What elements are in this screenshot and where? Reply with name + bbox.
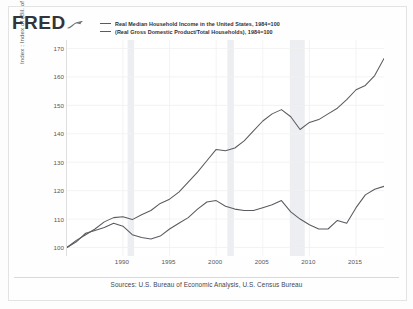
y-tick-label: 150 (36, 102, 64, 109)
x-tick-label: 1990 (115, 258, 129, 265)
recession-band (290, 40, 305, 256)
plot-area (66, 40, 384, 256)
y-tick-label: 170 (36, 45, 64, 52)
legend-line-icon (100, 23, 111, 24)
legend-item-1-label: (Real Gross Domestic Product/Total House… (115, 29, 273, 35)
legend-item-1: (Real Gross Domestic Product/Total House… (100, 29, 273, 35)
y-tick-label: 120 (36, 187, 64, 194)
legend-item-0: Real Median Household Income in the Unit… (100, 21, 280, 27)
legend-item-0-label: Real Median Household Income in the Unit… (115, 21, 280, 27)
recession-band (227, 40, 234, 256)
recession-band (128, 40, 135, 256)
chart-lines (67, 40, 384, 256)
y-tick-label: 140 (36, 130, 64, 137)
x-tick-label: 2015 (348, 258, 362, 265)
x-axis-ticks: 199019952000200520102015 (66, 258, 386, 270)
series-line-1 (67, 186, 384, 247)
x-tick-label: 1995 (161, 258, 175, 265)
y-tick-label: 160 (36, 73, 64, 80)
y-tick-label: 100 (36, 244, 64, 251)
y-axis-title: Index : Index of (Bil. of Chn. 2012 $/Th… (18, 0, 25, 64)
chart-header: FRED Real Median Household Income in the… (4, 6, 394, 36)
y-axis-ticks: 100110120130140150160170 (36, 34, 64, 262)
x-tick-label: 2010 (301, 258, 315, 265)
fred-chart-screenshot: FRED Real Median Household Income in the… (0, 0, 413, 309)
fred-squiggle-icon (67, 19, 83, 31)
x-tick-label: 2005 (255, 258, 269, 265)
x-tick-label: 2000 (208, 258, 222, 265)
source-note: Sources: U.S. Bureau of Economic Analysi… (0, 281, 413, 288)
y-tick-label: 110 (36, 216, 64, 223)
y-tick-label: 130 (36, 159, 64, 166)
legend-line-icon (100, 31, 111, 32)
footer-divider (14, 277, 399, 278)
